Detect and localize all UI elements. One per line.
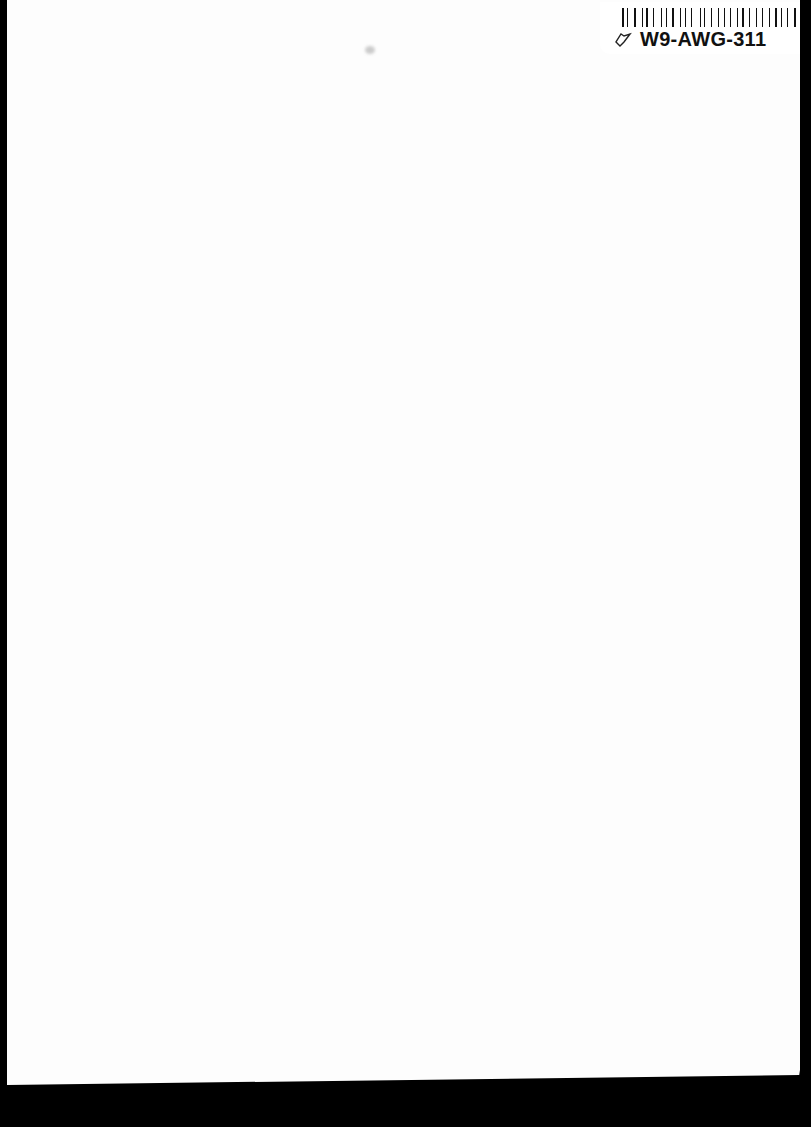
scanned-page: W9-AWG-311: [7, 0, 800, 1085]
leaf-outline-icon: [614, 32, 632, 48]
barcode-label: W9-AWG-311: [600, 2, 808, 54]
scan-border-right: [800, 0, 811, 1127]
library-code: W9-AWG-311: [640, 28, 766, 51]
scan-smudge: [365, 46, 375, 54]
barcode: [622, 8, 800, 27]
